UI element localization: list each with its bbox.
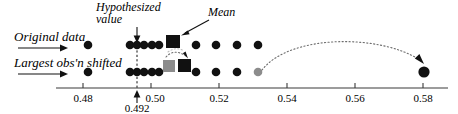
hypothesized-value-annotation: [134, 27, 141, 103]
mean-shift-arc-ghost: [168, 49, 184, 52]
axis-tick-label-0-52: 0.52: [209, 92, 228, 104]
data-point-faded: [254, 68, 263, 77]
axis-tick-label-0-56: 0.56: [345, 92, 364, 104]
label-largest-shifted: Largest obs'n shifted: [14, 56, 122, 70]
original-data-arrow: [18, 45, 68, 52]
data-point: [192, 41, 201, 50]
mean-marker: [166, 35, 180, 48]
mean-marker: [178, 59, 191, 72]
mean-shift-arc: [166, 52, 188, 59]
x-axis: [56, 83, 448, 88]
data-point: [254, 41, 263, 50]
data-point: [233, 41, 242, 50]
label-original-data: Original data: [14, 30, 85, 44]
data-point: [233, 68, 242, 77]
axis-tick-label-0-54: 0.54: [277, 92, 296, 104]
data-point: [140, 68, 149, 77]
data-point: [212, 68, 221, 77]
data-point: [140, 41, 149, 50]
dotplot-figure: Original data Largest obs'n shifted Hypo…: [0, 0, 458, 114]
data-point: [155, 68, 164, 77]
data-point: [212, 41, 221, 50]
hypothesized-value-label: 0.492: [125, 102, 150, 114]
mean-annotation-arrow: [181, 20, 209, 36]
axis-tick-label-0-48: 0.48: [73, 92, 92, 104]
label-mean: Mean: [208, 6, 235, 19]
shift-arc: [262, 42, 424, 70]
series-largest-shifted: [84, 59, 430, 78]
series-original-data: [84, 35, 263, 49]
largest-shifted-arrow: [18, 71, 68, 78]
data-point: [192, 68, 201, 77]
axis-tick-label-0-58: 0.58: [413, 92, 432, 104]
data-point-shifted: [418, 66, 429, 77]
data-point: [155, 41, 164, 50]
label-hypothesized-line2: value: [96, 13, 122, 26]
mean-marker-faded: [163, 60, 175, 72]
